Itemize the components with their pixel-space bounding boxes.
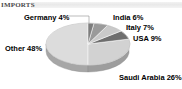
pie-label-italy: Italy 7% xyxy=(126,23,154,32)
header-divider-rule xyxy=(31,2,182,8)
pie-label-germany: Germany 4% xyxy=(24,13,69,22)
pie-label-other: Other 48% xyxy=(5,44,42,53)
imports-pie-chart-screenshot: IMPORTS xyxy=(0,0,182,89)
pie-label-india: India 6% xyxy=(113,13,143,22)
chart-header: IMPORTS xyxy=(0,0,182,11)
chart-plot-area: Germany 4% India 6% Italy 7% USA 9% Saud… xyxy=(0,11,182,89)
pie-label-usa: USA 9% xyxy=(133,34,161,43)
pie-label-saudi-arabia: Saudi Arabia 26% xyxy=(119,73,182,82)
page-title: IMPORTS xyxy=(1,1,35,9)
pie-top-face-group xyxy=(46,23,130,65)
